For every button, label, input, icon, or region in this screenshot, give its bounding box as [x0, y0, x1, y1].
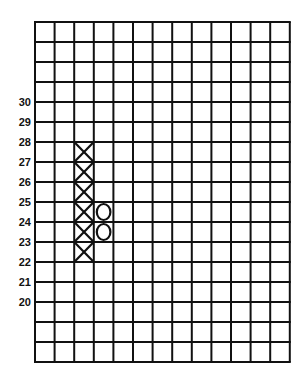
y-tick-label: 29: [19, 116, 31, 128]
y-tick-label: 30: [19, 96, 31, 108]
point-and-figure-chart: 3029282726252423222120: [0, 0, 307, 380]
y-tick-label: 23: [19, 236, 31, 248]
y-tick-label: 25: [19, 196, 31, 208]
o-mark: [97, 224, 111, 240]
y-tick-label: 27: [19, 156, 31, 168]
chart-grid: [34, 22, 291, 362]
y-tick-label: 20: [19, 296, 31, 308]
y-tick-label: 22: [19, 256, 31, 268]
y-axis-labels: 3029282726252423222120: [19, 96, 32, 308]
o-mark: [97, 204, 111, 220]
y-tick-label: 26: [19, 176, 31, 188]
y-tick-label: 24: [19, 216, 32, 228]
y-tick-label: 21: [19, 276, 31, 288]
y-tick-label: 28: [19, 136, 31, 148]
